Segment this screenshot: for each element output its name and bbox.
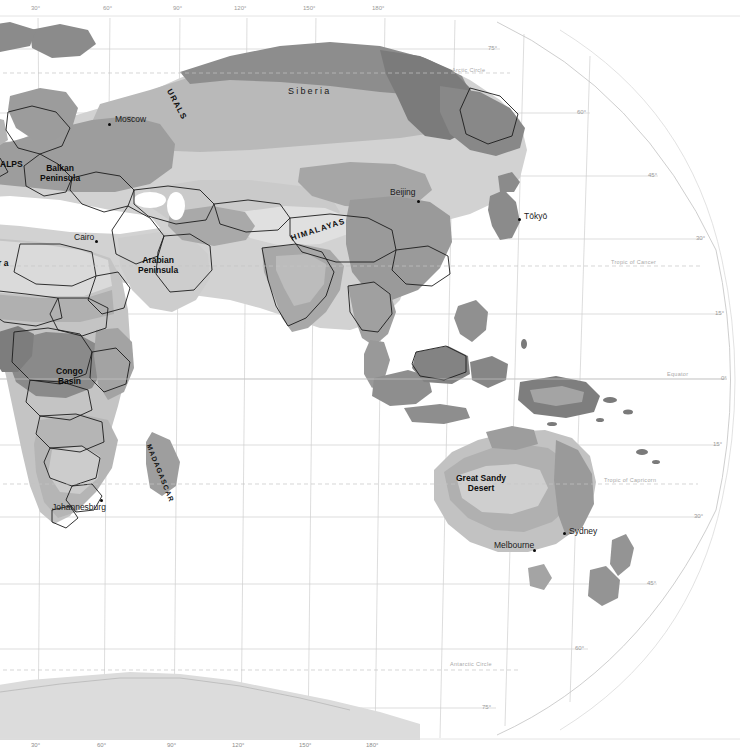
city-dot-tokyo [518,218,521,221]
city-dot-cairo [95,240,98,243]
city-dot-melbourne [533,549,536,552]
black-sea [134,192,166,208]
city-dot-beijing [417,200,420,203]
map-canvas[interactable] [0,0,740,755]
city-dot-sydney [563,532,566,535]
city-dot-moscow [108,123,111,126]
city-dot-johannesburg [100,499,103,502]
caspian-sea [167,192,185,220]
world-map[interactable]: 30° 60° 90° 120° 150° 180° 30° 60° 90° 1… [0,0,740,755]
